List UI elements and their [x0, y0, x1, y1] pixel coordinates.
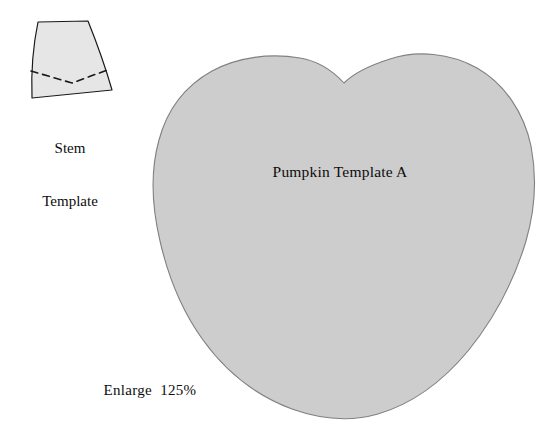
stem-template-caption: Stem Template	[0, 105, 140, 247]
pumpkin-shape	[153, 54, 534, 419]
template-sheet: Stem Template Pumpkin Template A Enlarge…	[0, 0, 559, 432]
stem-caption-line-2: Template	[0, 193, 140, 211]
pumpkin-template-label: Pumpkin Template A	[180, 163, 500, 181]
stem-shape	[32, 21, 112, 98]
stem-caption-line-1: Stem	[0, 140, 140, 158]
enlarge-instruction: Enlarge 125%	[60, 382, 240, 400]
